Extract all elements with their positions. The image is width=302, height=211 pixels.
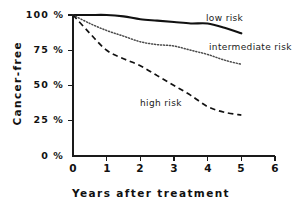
- x-tick-label-3: 3: [164, 163, 184, 174]
- y-tick-label-100: 100 %: [8, 10, 64, 20]
- x-tick-label-2: 2: [130, 163, 150, 174]
- x-tick-label-4: 4: [198, 163, 218, 174]
- series-label-high-risk: high risk: [140, 99, 182, 108]
- y-axis-title: Cancer-free: [12, 33, 23, 133]
- survival-chart: 100 % 75 % 50 % 25 % 0 % 0 1 2 3 4 5 6 Y…: [0, 0, 302, 211]
- x-tick-label-5: 5: [231, 163, 251, 174]
- x-axis-title: Years after treatment: [0, 188, 302, 199]
- y-tick-label-0: 0 %: [8, 151, 64, 161]
- x-tick-label-1: 1: [97, 163, 117, 174]
- series-label-intermediate-risk: intermediate risk: [209, 43, 292, 52]
- series-label-low-risk: low risk: [206, 14, 243, 23]
- axes-group: [68, 15, 275, 161]
- x-tick-label-6: 6: [265, 163, 285, 174]
- x-tick-label-0: 0: [63, 163, 83, 174]
